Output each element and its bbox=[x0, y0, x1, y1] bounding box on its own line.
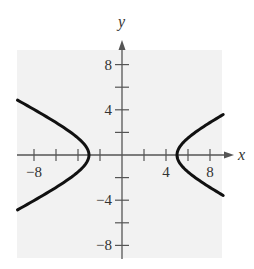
x-tick-label: −8 bbox=[26, 164, 42, 180]
x-axis-arrow-icon bbox=[224, 152, 234, 159]
y-axis-label: y bbox=[116, 13, 126, 31]
y-tick-label: 4 bbox=[105, 102, 113, 118]
y-axis-arrow-icon bbox=[119, 40, 126, 50]
y-tick-label: −4 bbox=[96, 192, 112, 208]
y-tick-label: −8 bbox=[96, 237, 112, 253]
hyperbola-graph: −84884−4−8 x y bbox=[0, 0, 254, 269]
x-axis-label: x bbox=[237, 146, 245, 163]
plot-background bbox=[17, 50, 222, 258]
x-tick-label: 8 bbox=[206, 164, 214, 180]
y-tick-label: 8 bbox=[105, 57, 113, 73]
x-tick-label: 4 bbox=[162, 164, 170, 180]
